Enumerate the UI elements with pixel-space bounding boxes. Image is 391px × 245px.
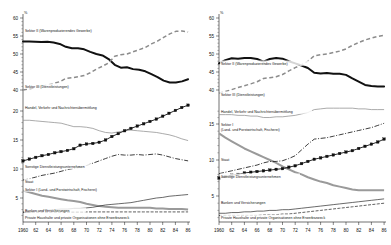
right-series-haushalte (219, 203, 384, 215)
right-ytick-5: 5 (211, 194, 214, 199)
data-marker (41, 154, 44, 157)
left-series-sektor2 (23, 41, 188, 82)
right-xtick-86: 86 (382, 228, 388, 233)
data-marker (104, 139, 107, 142)
left-ytick-60: 60 (13, 16, 19, 21)
right-y-ticks-lower (216, 111, 219, 217)
left-xtick-80: 80 (147, 228, 153, 233)
left-ytick-5: 5 (15, 196, 18, 201)
left-ytick-40: 40 (13, 88, 19, 93)
data-marker (357, 147, 360, 150)
data-marker (187, 104, 190, 107)
data-marker (155, 118, 158, 121)
left-xtick-78: 78 (135, 228, 141, 233)
data-marker (47, 153, 50, 156)
data-marker (22, 160, 25, 163)
data-marker (130, 127, 133, 130)
data-marker (262, 170, 265, 173)
data-marker (142, 122, 145, 125)
left-ytick-20: 20 (13, 109, 19, 114)
left-y-ticks-upper (20, 18, 23, 90)
left-label-sektor1: Sektor I (Land- und Forstwirtschaft, Fis… (25, 188, 97, 192)
data-marker (376, 141, 379, 144)
right-label-handel: Handel, Verkehr und Nachrichtenübermittl… (221, 110, 293, 114)
left-xtick-72: 72 (97, 228, 103, 233)
left-series-sonstige (22, 104, 190, 162)
data-marker (338, 152, 341, 155)
right-ytick-45: 45 (209, 70, 215, 75)
left-unit-label: % (24, 11, 28, 15)
right-series-sonstige (218, 138, 386, 179)
data-marker (307, 160, 310, 163)
right-xtick-78: 78 (331, 228, 337, 233)
left-label-staat: Staat (25, 180, 33, 184)
left-label-handel: Handel, Verkehr und Nachrichtenübermittl… (25, 106, 97, 110)
data-marker (60, 150, 63, 153)
right-ytick-10: 10 (209, 158, 215, 163)
left-label-sonstige: Sonstige Dienstleistungsunternehmen (25, 165, 85, 169)
left-xtick-76: 76 (122, 228, 128, 233)
data-marker (364, 145, 367, 148)
left-chart-svg: % (0, 0, 195, 245)
data-marker (168, 112, 171, 115)
right-label-staat: Staat (221, 158, 229, 162)
right-label-sektor1-line2: (Land- und Forstwirtschaft, Fischerei) (221, 128, 280, 132)
left-xtick-62: 62 (33, 228, 39, 233)
left-y-ticks-lower (20, 111, 23, 215)
data-marker (326, 155, 329, 158)
right-ytick-60: 60 (209, 16, 215, 21)
right-label-sektor2: Sektor II (Warenproduzierendes Gewerbe) (221, 62, 288, 66)
right-label-sonstige: Sonstige Dienstleistungsunternehmen (221, 175, 281, 179)
right-x-ticks (219, 222, 384, 225)
right-xtick-76: 76 (318, 228, 324, 233)
left-xtick-84: 84 (173, 228, 179, 233)
right-xtick-74: 74 (305, 228, 311, 233)
data-marker (85, 143, 88, 146)
right-ytick-15: 15 (209, 122, 215, 127)
data-marker (300, 162, 303, 165)
data-marker (294, 164, 297, 167)
left-label-haushalte: Private Haushalte und private Organisati… (25, 216, 129, 220)
data-marker (332, 154, 335, 157)
left-xtick-68: 68 (71, 228, 77, 233)
left-xtick-64: 64 (46, 228, 52, 233)
data-marker (180, 106, 183, 109)
data-marker (28, 158, 31, 161)
right-series-sektor1 (219, 133, 384, 190)
right-xtick-66: 66 (255, 228, 261, 233)
figure-sheet: % (0, 0, 391, 245)
left-ytick-45: 45 (13, 70, 19, 75)
data-marker (111, 135, 114, 138)
data-marker (313, 158, 316, 161)
data-marker (249, 171, 252, 174)
data-marker (281, 167, 284, 170)
data-marker (117, 132, 120, 135)
left-xtick-1960: 1960 (18, 228, 29, 233)
data-marker (351, 149, 354, 152)
left-xtick-86: 86 (186, 228, 192, 233)
data-marker (370, 143, 373, 146)
right-xtick-82: 82 (356, 228, 362, 233)
right-label-sektor1-line1: Sektor I (221, 123, 233, 127)
data-marker (66, 149, 69, 152)
right-label-sektor3: Sektor III (Dienstleistungen) (221, 93, 265, 97)
left-xtick-70: 70 (84, 228, 90, 233)
left-xtick-66: 66 (59, 228, 65, 233)
right-xtick-84: 84 (369, 228, 375, 233)
right-unit-label: % (220, 11, 224, 15)
chart-panel-right: % (196, 0, 391, 245)
data-marker (269, 169, 272, 172)
left-xtick-74: 74 (109, 228, 115, 233)
data-marker (288, 166, 291, 169)
data-marker (345, 151, 348, 154)
left-series-sektor1 (23, 190, 188, 209)
right-ytick-50: 50 (209, 52, 215, 57)
left-x-ticks (23, 222, 188, 225)
data-marker (123, 129, 126, 132)
right-xtick-68: 68 (267, 228, 273, 233)
right-xtick-62: 62 (229, 228, 235, 233)
data-marker (136, 125, 139, 128)
left-label-banken: Banken und Versicherungen (25, 209, 70, 213)
right-ytick-40: 40 (209, 88, 215, 93)
right-xtick-64: 64 (242, 228, 248, 233)
